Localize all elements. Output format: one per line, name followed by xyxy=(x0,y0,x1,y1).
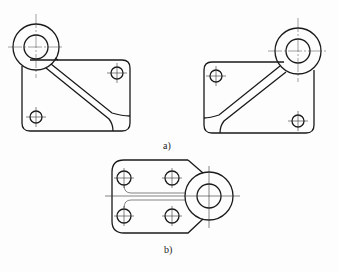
technical-drawing xyxy=(0,0,338,272)
part-a-right xyxy=(204,18,328,133)
part-b xyxy=(105,160,240,233)
figure-label-a: a) xyxy=(163,140,171,151)
figure-label-b: b) xyxy=(164,244,172,255)
part-a-left xyxy=(8,14,130,131)
